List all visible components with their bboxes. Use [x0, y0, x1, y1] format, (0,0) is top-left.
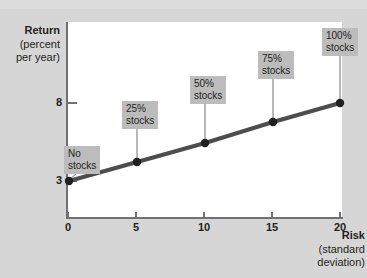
data-point-50-stocks: [201, 139, 209, 147]
callout-75-stocks: 75% stocks: [258, 51, 294, 79]
data-point-100-stocks: [336, 99, 344, 107]
callout-no-stocks: No stocks: [64, 146, 100, 174]
series-graphics: [0, 0, 367, 278]
callout-25-stocks: 25% stocks: [122, 101, 158, 129]
data-point-25-stocks: [133, 158, 141, 166]
callout-100-stocks: 100% stocks: [322, 28, 358, 56]
risk-return-chart: 8 3 0 5 10 15 20 Return (percent per yea…: [0, 0, 367, 278]
data-point-75-stocks: [269, 118, 277, 126]
callout-50-stocks: 50% stocks: [190, 76, 226, 104]
data-point-no-stocks: [65, 177, 73, 185]
